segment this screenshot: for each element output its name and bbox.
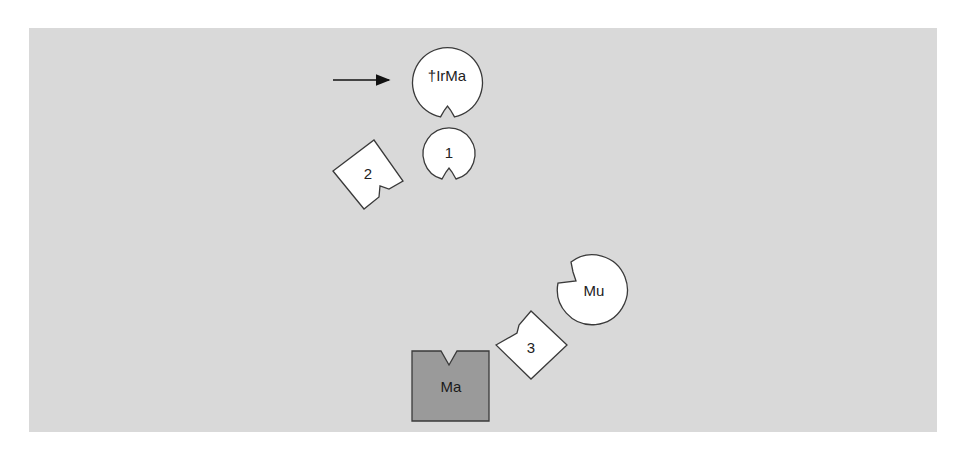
node-1: 1	[423, 128, 475, 179]
node-trma: †IrMa	[413, 48, 483, 117]
node-ma-label: Ma	[441, 378, 462, 395]
diagram-canvas: †IrMa 1 2 Mu 3 Ma	[0, 0, 965, 455]
node-2-label: 2	[364, 165, 372, 182]
node-1-label: 1	[445, 144, 453, 161]
node-3: 3	[496, 311, 567, 379]
node-2: 2	[333, 140, 403, 209]
node-ma: Ma	[412, 351, 489, 421]
node-trma-label: †IrMa	[428, 67, 467, 84]
node-mu-label: Mu	[584, 282, 605, 299]
node-mu: Mu	[557, 255, 627, 325]
node-3-label: 3	[527, 339, 535, 356]
